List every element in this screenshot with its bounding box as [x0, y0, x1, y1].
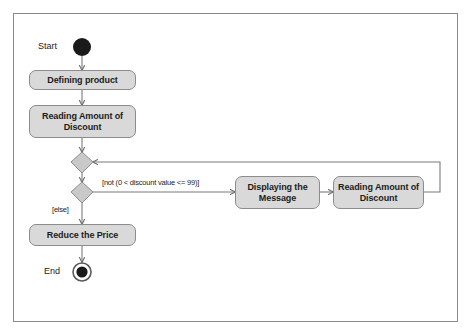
action-reading-amount-2[interactable]: Reading Amount of Discount: [333, 176, 424, 209]
guard-not-valid-label: [not (0 < discount value <= 99)]: [102, 178, 199, 187]
action-defining-product[interactable]: Defining product: [29, 70, 136, 90]
end-label: End: [44, 266, 60, 276]
start-label: Start: [38, 41, 57, 51]
action-displaying-the-message-label: Displaying the Message: [236, 182, 319, 204]
diagram-canvas: Start End [not (0 < discount value <= 99…: [0, 0, 471, 335]
action-defining-product-label: Defining product: [47, 75, 117, 86]
action-displaying-the-message[interactable]: Displaying the Message: [235, 176, 320, 209]
guard-else-label: [else]: [52, 205, 69, 214]
diagram-frame: [13, 13, 458, 322]
action-reading-amount-2-label: Reading Amount of Discount: [334, 182, 423, 204]
action-reading-amount-1[interactable]: Reading Amount of Discount: [29, 105, 136, 138]
action-reduce-the-price[interactable]: Reduce the Price: [29, 224, 136, 246]
action-reading-amount-1-label: Reading Amount of Discount: [30, 111, 135, 133]
action-reduce-the-price-label: Reduce the Price: [47, 230, 118, 241]
